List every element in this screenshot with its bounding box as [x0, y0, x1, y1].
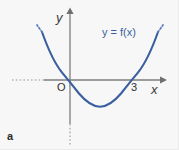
parabola-plot	[0, 0, 179, 150]
y-axis-label: y	[56, 11, 63, 24]
curve-dashed-tip-right	[158, 25, 163, 32]
curve-dashed-tip-left	[37, 25, 42, 32]
y-axis-arrowhead	[66, 8, 73, 15]
panel-label: a	[7, 131, 13, 142]
x-axis-label: x	[151, 83, 158, 96]
function-label: y = f(x)	[102, 27, 136, 38]
figure-panel: y x O 3 y = f(x) a	[0, 0, 179, 150]
origin-label: O	[57, 82, 66, 93]
x-axis-arrowhead	[160, 76, 167, 83]
x-intercept-label: 3	[131, 82, 137, 93]
parabola-curve	[42, 32, 158, 107]
